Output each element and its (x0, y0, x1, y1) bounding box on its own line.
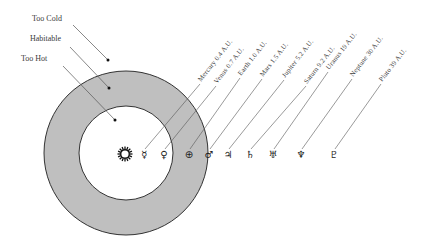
saturn-symbol-icon: ♄ (246, 149, 255, 160)
zone-marker-dot (107, 59, 110, 62)
zone-label-text: Too Cold (32, 14, 62, 23)
planet-pluto: ♇Pluto 39 A.U. (330, 47, 408, 160)
earth-symbol-icon: ⊕ (185, 149, 193, 160)
zone-marker-dot (114, 119, 117, 122)
leader-line (274, 72, 328, 149)
sun-icon (118, 147, 133, 162)
leader-line (251, 86, 306, 149)
uranus-symbol-icon: ♅ (269, 149, 278, 160)
leader-line (73, 25, 108, 60)
planet-label: Pluto 39 A.U. (377, 47, 407, 83)
zone-label-text: Habitable (30, 34, 62, 43)
venus-symbol-icon: ♀ (160, 149, 167, 160)
leader-line (302, 79, 352, 149)
mars-symbol-icon: ♂ (205, 149, 214, 160)
pluto-symbol-icon: ♇ (330, 149, 339, 160)
zone-marker-dot (108, 87, 111, 90)
zone-label-text: Too Hot (21, 54, 48, 63)
leader-line (210, 79, 262, 149)
planet-label: Neptune 30 A.U. (348, 35, 384, 78)
jupiter-symbol-icon: ♃ (224, 149, 233, 160)
habitable-zone-diagram: Too ColdHabitableToo Hot ☿Mercury 0.4 A.… (0, 0, 437, 251)
leader-line (229, 80, 284, 149)
neptune-symbol-icon: ♆ (297, 149, 306, 160)
mercury-symbol-icon: ☿ (141, 149, 147, 160)
leader-line (335, 84, 381, 149)
